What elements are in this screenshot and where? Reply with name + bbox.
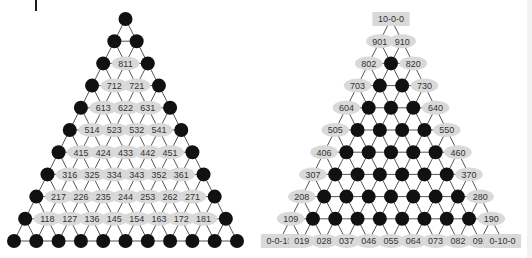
svg-text:244: 244	[118, 192, 133, 202]
lattice-node	[406, 145, 420, 159]
lattice-node	[339, 145, 353, 159]
lattice-node	[52, 145, 66, 159]
svg-text:0-10-0: 0-10-0	[489, 236, 515, 246]
lattice-node	[429, 145, 443, 159]
svg-text:307: 307	[305, 170, 320, 180]
svg-text:055: 055	[383, 236, 398, 246]
svg-text:631: 631	[140, 103, 155, 113]
svg-text:433: 433	[118, 148, 133, 158]
lattice-node	[328, 167, 342, 181]
node-label: 271	[179, 190, 207, 204]
node-label: 361	[168, 167, 196, 181]
svg-text:163: 163	[151, 214, 166, 224]
node-label: 640	[422, 101, 450, 115]
lattice-node	[141, 234, 155, 248]
lattice-node	[429, 190, 443, 204]
svg-text:226: 226	[73, 192, 88, 202]
svg-text:550: 550	[439, 125, 454, 135]
lattice-node	[351, 167, 365, 181]
lattice-node	[362, 145, 376, 159]
node-label: 307	[299, 167, 327, 181]
svg-text:145: 145	[107, 214, 122, 224]
node-label: 811	[112, 56, 140, 70]
lattice-node	[440, 167, 454, 181]
node-label: 721	[123, 79, 151, 93]
simplex-diagrams: 8117127216136226315145235325414154244334…	[0, 0, 532, 258]
svg-text:10-0-0: 10-0-0	[378, 14, 404, 24]
lattice-node	[462, 212, 476, 226]
svg-text:811: 811	[118, 59, 132, 69]
svg-text:721: 721	[129, 81, 144, 91]
lattice-node	[339, 190, 353, 204]
lattice-node	[185, 234, 199, 248]
lattice-node	[7, 234, 21, 248]
lattice-node	[395, 79, 409, 93]
lattice-node	[362, 190, 376, 204]
node-label: 505	[322, 123, 350, 137]
node-label: 604	[333, 101, 361, 115]
svg-text:820: 820	[406, 59, 421, 69]
svg-text:730: 730	[417, 81, 432, 91]
lattice-node	[395, 167, 409, 181]
lattice-node	[219, 212, 233, 226]
lattice-node	[384, 56, 398, 70]
tick-mark	[35, 0, 37, 11]
lattice-node	[417, 123, 431, 137]
lattice-node	[63, 123, 77, 137]
lattice-node	[29, 234, 43, 248]
svg-text:046: 046	[361, 236, 376, 246]
svg-text:280: 280	[473, 192, 488, 202]
node-label: 406	[310, 145, 338, 159]
lattice-node	[417, 212, 431, 226]
lattice-node	[362, 101, 376, 115]
svg-text:109: 109	[283, 214, 298, 224]
right-triangle: 10-0-09019108028207037306046405055504064…	[261, 12, 521, 248]
node-label: 550	[433, 123, 461, 137]
lattice-node	[384, 101, 398, 115]
lattice-node	[384, 145, 398, 159]
svg-text:442: 442	[140, 148, 155, 158]
svg-text:370: 370	[462, 170, 477, 180]
lattice-node	[230, 234, 244, 248]
svg-text:640: 640	[428, 103, 443, 113]
lattice-node	[119, 234, 133, 248]
left-triangle: 8117127216136226315145235325414154244334…	[7, 12, 244, 248]
lattice-node	[351, 212, 365, 226]
lattice-node	[351, 123, 365, 137]
lattice-node	[373, 212, 387, 226]
svg-text:406: 406	[317, 148, 332, 158]
lattice-node	[107, 34, 121, 48]
node-label: 460	[444, 145, 472, 159]
lattice-node	[328, 212, 342, 226]
lattice-node	[130, 34, 144, 48]
svg-text:622: 622	[118, 103, 133, 113]
svg-text:028: 028	[317, 236, 332, 246]
svg-text:253: 253	[140, 192, 155, 202]
svg-text:037: 037	[339, 236, 354, 246]
lattice-node	[119, 12, 133, 26]
lattice-node	[163, 234, 177, 248]
lattice-node	[317, 190, 331, 204]
svg-text:415: 415	[73, 148, 88, 158]
svg-text:217: 217	[51, 192, 66, 202]
svg-text:181: 181	[196, 214, 211, 224]
lattice-node	[395, 212, 409, 226]
lattice-node	[96, 56, 110, 70]
svg-text:208: 208	[294, 192, 309, 202]
svg-text:118: 118	[40, 214, 54, 224]
svg-text:361: 361	[174, 170, 189, 180]
node-label: 802	[355, 56, 383, 70]
svg-text:262: 262	[163, 192, 178, 202]
node-label: 370	[455, 167, 483, 181]
lattice-node	[174, 123, 188, 137]
svg-text:910: 910	[395, 37, 410, 47]
lattice-node	[85, 79, 99, 93]
svg-text:514: 514	[85, 125, 100, 135]
lattice-node	[384, 190, 398, 204]
svg-text:604: 604	[339, 103, 354, 113]
lattice-node	[141, 56, 155, 70]
lattice-node	[451, 190, 465, 204]
node-label: 208	[288, 190, 316, 204]
svg-text:073: 073	[428, 236, 443, 246]
figure: 8117127216136226315145235325414154244334…	[0, 0, 532, 258]
